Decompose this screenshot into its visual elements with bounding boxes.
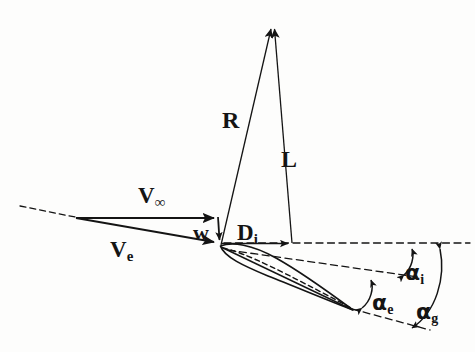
effective-angle-label-subscript: e xyxy=(387,302,393,317)
effective-velocity-label: Ve xyxy=(110,238,133,264)
downwash-arrow xyxy=(218,217,220,240)
resultant-force-arrow xyxy=(221,29,271,245)
freestream-velocity-label-base: V xyxy=(138,183,155,208)
alpha-e-arc xyxy=(362,280,372,308)
freestream-velocity-label: V∞ xyxy=(138,184,165,210)
induced-drag-label-subscript: i xyxy=(254,231,258,247)
geometric-angle-label-subscript: g xyxy=(431,311,438,326)
induced-angle-label: αi xyxy=(405,262,424,287)
lift-force-label: L xyxy=(281,147,297,171)
upstream-reference-dashed-line xyxy=(20,206,80,218)
resultant-force-label-base: R xyxy=(222,107,239,133)
diagram-canvas xyxy=(0,0,475,352)
force-vectors xyxy=(221,29,292,245)
geometric-angle-label-base: α xyxy=(416,299,431,324)
lift-force-label-base: L xyxy=(281,146,297,172)
effective-velocity-label-base: V xyxy=(110,237,127,262)
effective-angle-label: αe xyxy=(372,292,393,317)
airfoil-section xyxy=(221,244,354,310)
induced-downwash-label-base: w xyxy=(193,220,209,245)
effective-angle-label-base: α xyxy=(372,290,387,315)
induced-angle-label-base: α xyxy=(405,260,420,285)
airfoil-chord-line xyxy=(221,247,353,310)
induced-downwash-label: w xyxy=(193,222,209,244)
geometric-angle-label: αg xyxy=(416,301,438,326)
airfoil-vector-diagram: V∞ Ve w R L Di αi αe αg xyxy=(0,0,475,352)
lift-force-arrow xyxy=(275,29,293,243)
induced-drag-label-base: D xyxy=(237,220,254,245)
effective-velocity-label-subscript: e xyxy=(127,248,134,264)
freestream-velocity-label-subscript: ∞ xyxy=(155,194,166,210)
resultant-force-label: R xyxy=(222,108,239,132)
induced-drag-label: Di xyxy=(237,221,258,247)
induced-angle-label-subscript: i xyxy=(420,272,424,287)
